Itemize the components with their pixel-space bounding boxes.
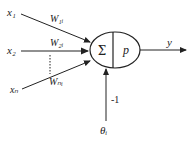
activation-label: p bbox=[122, 43, 129, 57]
input-label-xn: xₙ bbox=[9, 84, 19, 95]
bias-value: -1 bbox=[111, 94, 119, 105]
threshold-label: θᵢ bbox=[100, 124, 107, 136]
weight-label-wni: Wₙᵢ bbox=[49, 76, 63, 87]
output-label: y bbox=[166, 36, 172, 48]
weight-label-w2i: W₂ᵢ bbox=[50, 37, 64, 48]
neuron-diagram: x₁ W₁ᵢ x₂ W₂ᵢ xₙ Wₙᵢ Σ p y -1 θᵢ bbox=[0, 0, 192, 143]
output: y bbox=[140, 36, 186, 50]
input-xn: xₙ Wₙᵢ bbox=[9, 61, 90, 95]
sum-symbol: Σ bbox=[98, 44, 106, 58]
weight-label-w1i: W₁ᵢ bbox=[50, 13, 64, 24]
input-label-x1: x₁ bbox=[6, 6, 16, 18]
input-x1: x₁ W₁ᵢ bbox=[6, 6, 90, 42]
input-label-x2: x₂ bbox=[6, 44, 16, 56]
input-x2: x₂ W₂ᵢ bbox=[6, 37, 88, 56]
neuron-node: Σ p bbox=[90, 32, 140, 68]
bias: -1 θᵢ bbox=[100, 69, 119, 136]
